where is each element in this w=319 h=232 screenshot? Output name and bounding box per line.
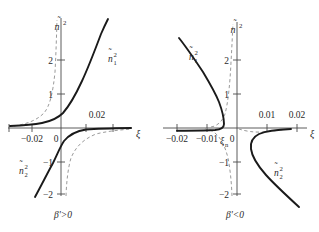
right-caption-text: β'<0 (225, 210, 244, 220)
right-curve-n1 (177, 38, 224, 131)
left-x-ticklabel: 0 (54, 134, 59, 144)
left-curve-label-n1: ̃ n 1 2 (108, 48, 118, 66)
right-y-ticklabel: 2 (224, 56, 229, 66)
left-y-axis-label-sup: 2 (63, 19, 67, 26)
figure-root: ̃ n 2 ξ −0.02 0 0.02 2 1 −1 −2 ̃ n 1 2 (0, 0, 319, 232)
left-curve-label-n1-sup: 2 (114, 51, 118, 58)
left-y-ticklabel: −1 (43, 158, 53, 168)
svg-text:̃: ̃ (189, 46, 193, 48)
right-panel-caption: β'<0 (225, 210, 244, 220)
right-panel-svg: ̃ n 2 ξ −0.02 −0.01 0 0.01 0.02 ξ n 2 1 … (159, 0, 319, 232)
right-y-ticklabel: −1 (219, 158, 229, 168)
chart-panel-left: ̃ n 2 ξ −0.02 0 0.02 2 1 −1 −2 ̃ n 1 2 (0, 0, 160, 232)
right-y-ticklabel: 1 (224, 90, 229, 100)
right-curve-label-n2-sup: 2 (280, 165, 284, 172)
right-curve-label-n1-base: n (189, 52, 194, 62)
left-x-axis-label: ξ (136, 128, 141, 140)
right-x-ticklabel: 0.01 (259, 110, 276, 120)
right-x-ticklabel: 0.02 (289, 110, 306, 120)
left-curve-label-n1-base: n (108, 54, 113, 64)
left-x-ticklabel: 0.02 (89, 110, 106, 120)
chart-panel-right: ̃ n 2 ξ −0.02 −0.01 0 0.01 0.02 ξ n 2 1 … (159, 0, 319, 232)
left-y-axis-label-base: n (55, 21, 60, 32)
left-curve-label-n2-base: n (19, 166, 24, 176)
svg-text:̃: ̃ (57, 16, 61, 18)
right-curve-label-n1-sub: 1 (195, 57, 198, 64)
right-y-axis-label-sup: 2 (239, 22, 243, 29)
right-y-ticklabel: −2 (219, 190, 229, 200)
right-curve-label-n2-base: n (274, 168, 279, 178)
left-y-ticklabel: 2 (48, 56, 53, 66)
svg-text:̃: ̃ (274, 162, 278, 164)
left-asymptote-upper-curve (14, 20, 57, 126)
svg-text:̃: ̃ (19, 160, 23, 162)
left-curve-label-n2-sub: 2 (25, 171, 28, 178)
left-asymptote-lower-curve (66, 129, 131, 196)
left-curve-label-n1-sub: 1 (114, 59, 117, 66)
left-y-ticklabel: 1 (48, 90, 53, 100)
right-x-ticklabel: −0.01 (196, 134, 218, 144)
left-panel-svg: ̃ n 2 ξ −0.02 0 0.02 2 1 −1 −2 ̃ n 1 2 (0, 0, 160, 232)
svg-text:̃: ̃ (233, 19, 237, 21)
right-xi-n-sub: n (225, 141, 229, 148)
svg-text:̃: ̃ (108, 48, 112, 50)
right-xi-n-label: ξ n (220, 135, 229, 148)
right-curve-label-n1: ̃ n 1 2 (189, 46, 199, 64)
right-x-ticklabel: 0 (230, 134, 235, 144)
left-curve-label-n2: ̃ n 2 2 (19, 160, 29, 178)
right-curve-label-n1-sup: 2 (195, 49, 199, 56)
right-x-axis-label: ξ (310, 128, 315, 140)
left-x-ticklabel: −0.02 (21, 134, 43, 144)
left-panel-caption: β'>0 (53, 210, 72, 220)
right-curve-label-n2: ̃ n 2 2 (274, 162, 284, 180)
right-y-axis-label-base: n (231, 24, 236, 35)
left-y-ticklabel: −2 (43, 190, 53, 200)
left-caption-text: β'>0 (53, 210, 72, 220)
right-curve-label-n2-sub: 2 (280, 173, 283, 180)
right-x-ticklabel: −0.02 (166, 134, 188, 144)
left-curve-label-n2-sup: 2 (25, 163, 29, 170)
